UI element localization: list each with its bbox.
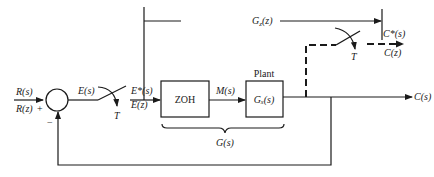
sampler-1-period: T	[114, 110, 121, 121]
sampler-2-label-s: C*(s)	[383, 28, 406, 40]
sampler-2-rotation-arrow	[335, 28, 355, 49]
output-label: C(s)	[414, 91, 432, 103]
plant-label: Gₓ(s)	[254, 94, 275, 106]
sampler-2-switch	[336, 31, 360, 45]
summing-junction	[46, 89, 68, 111]
sampler-1-rotation-arrow	[98, 87, 117, 106]
error-label: E(s)	[77, 85, 95, 97]
minus-sign: −	[47, 117, 53, 128]
plus-sign: +	[37, 103, 43, 114]
sampled-error-label-s: E*(s)	[130, 85, 153, 97]
pulse-tf-label: Gz(z)	[252, 15, 273, 28]
sampler-2-period: T	[351, 51, 358, 62]
block-diagram: R(s) R(z) + − E(s) T E*(s) E(z) ZOH M(s)…	[0, 0, 434, 177]
m-signal-label: M(s)	[215, 85, 236, 97]
g-brace-label: G(s)	[216, 137, 234, 149]
plant-title: Plant	[254, 68, 275, 79]
sampled-error-label-z: E(z)	[130, 99, 148, 111]
feedback-path	[58, 97, 331, 165]
zoh-label: ZOH	[175, 94, 196, 105]
input-label-s: R(s)	[15, 86, 33, 98]
sampler-2-dashed-input	[306, 45, 336, 97]
sampler-2-label-z: C(z)	[384, 47, 402, 59]
input-label-z: R(z)	[15, 103, 33, 115]
g-brace	[162, 124, 284, 133]
